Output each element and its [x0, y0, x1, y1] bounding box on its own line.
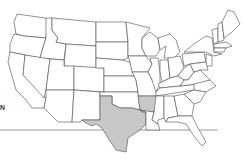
us-map — [0, 0, 244, 159]
state-iowa — [128, 56, 152, 72]
state-michigan — [158, 34, 180, 58]
state-kansas — [104, 76, 138, 92]
state-florida — [166, 116, 206, 146]
state-colorado — [74, 66, 104, 92]
state-connecticut-ri — [214, 48, 226, 52]
state-vermont — [212, 28, 218, 44]
state-montana — [52, 18, 96, 46]
state-south-dakota — [96, 42, 128, 60]
state-maine — [222, 10, 240, 38]
state-new-mexico — [72, 90, 100, 122]
state-arizona — [44, 90, 74, 122]
state-wyoming — [64, 44, 96, 68]
state-wisconsin — [142, 32, 160, 56]
state-new-jersey — [206, 54, 212, 66]
state-washington — [14, 14, 48, 38]
state-north-dakota — [96, 22, 128, 42]
